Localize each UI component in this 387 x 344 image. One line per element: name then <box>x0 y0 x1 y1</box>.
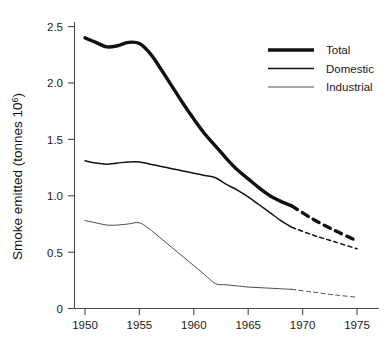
series-line-dashed-industrial <box>292 289 357 297</box>
x-tick-label-1965: 1965 <box>235 319 261 331</box>
series-line-dashed-total <box>292 206 357 241</box>
x-tick-label-1975: 1975 <box>344 319 370 331</box>
x-tick-label-1960: 1960 <box>181 319 207 331</box>
series-total <box>85 38 357 241</box>
x-axis-tick-labels: 1950 1955 1960 1965 1970 1975 <box>72 319 370 331</box>
series-line-solid-total <box>85 38 292 206</box>
y-tick-label-1-5: 1.5 <box>47 134 63 146</box>
y-axis-title-suffix: ) <box>10 93 25 98</box>
y-axis-title-text: Smoke emitted (tonnes 10 <box>10 102 25 260</box>
y-axis-tick-labels: 2.5 2.0 1.5 1.0 0.5 0 <box>47 21 63 315</box>
x-axis-ticks <box>85 309 357 316</box>
y-tick-label-2-5: 2.5 <box>47 21 63 33</box>
y-tick-label-0: 0 <box>57 303 63 315</box>
svg-text:Smoke emitted (tonnes 106): Smoke emitted (tonnes 106) <box>10 93 25 260</box>
y-axis-title: Smoke emitted (tonnes 106) <box>10 93 25 260</box>
line-chart: Smoke emitted (tonnes 106) 2.5 2.0 1.5 1… <box>0 0 387 344</box>
series-domestic <box>85 161 357 249</box>
chart-figure: Smoke emitted (tonnes 106) 2.5 2.0 1.5 1… <box>0 0 387 344</box>
series-layer <box>85 38 357 297</box>
y-tick-label-2-0: 2.0 <box>47 77 63 89</box>
x-tick-label-1955: 1955 <box>127 319 153 331</box>
y-axis-ticks <box>68 27 75 309</box>
y-tick-label-0-5: 0.5 <box>47 247 63 259</box>
chart-legend: TotalDomesticIndustrial <box>268 44 374 93</box>
x-tick-label-1970: 1970 <box>290 319 316 331</box>
legend-label-industrial: Industrial <box>326 81 373 93</box>
y-tick-label-1-0: 1.0 <box>47 190 63 202</box>
x-tick-label-1950: 1950 <box>72 319 98 331</box>
series-line-solid-domestic <box>85 161 292 228</box>
legend-label-domestic: Domestic <box>326 63 374 75</box>
series-industrial <box>85 221 357 298</box>
series-line-solid-industrial <box>85 221 292 290</box>
legend-label-total: Total <box>326 44 350 56</box>
